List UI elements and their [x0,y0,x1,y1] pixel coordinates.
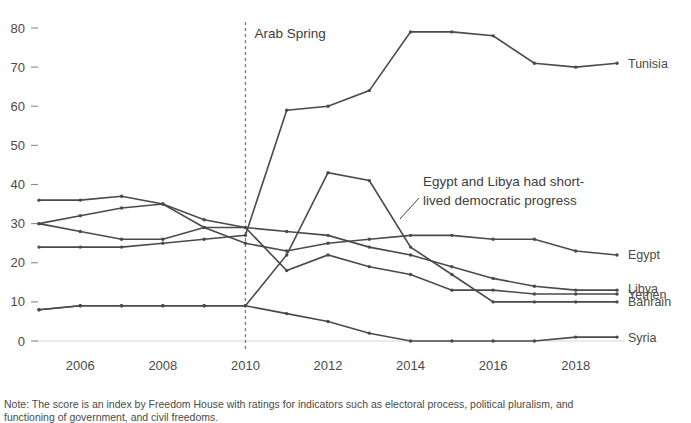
data-point [450,339,453,342]
data-point [37,222,40,225]
data-point [326,320,329,323]
y-axis-tick-label: 70 [11,60,25,75]
data-point [533,292,536,295]
data-point [202,226,205,229]
data-point [450,234,453,237]
x-axis-tick-label: 2016 [479,358,508,373]
data-point [533,300,536,303]
data-point [574,300,577,303]
data-point [326,234,329,237]
data-point [409,245,412,248]
data-point [326,105,329,108]
data-point [368,89,371,92]
data-point [615,335,618,338]
data-point [450,288,453,291]
data-point [244,304,247,307]
data-point [161,304,164,307]
data-point [409,253,412,256]
data-point [533,238,536,241]
data-point [409,273,412,276]
y-axis-tick-label: 10 [11,294,25,309]
event-marker-label: Arab Spring [254,26,325,41]
x-axis-tick-label: 2012 [314,358,343,373]
data-point [491,277,494,280]
data-point [37,245,40,248]
series-label-egypt: Egypt [628,248,660,262]
annotation-line-1: Egypt and Libya had short- [423,174,584,189]
data-point [285,230,288,233]
x-axis-tick-label: 2010 [231,358,260,373]
series-label-libya: Libya [628,282,658,296]
data-point [533,62,536,65]
data-point [79,198,82,201]
y-axis-tick-label: 30 [11,216,25,231]
series-label-syria: Syria [628,331,657,345]
data-point [368,179,371,182]
data-point [574,65,577,68]
data-point [491,339,494,342]
data-point [574,288,577,291]
data-point [161,238,164,241]
data-point [491,300,494,303]
data-point [37,198,40,201]
data-point [615,300,618,303]
data-point [285,312,288,315]
data-point [79,245,82,248]
annotation-line-2: lived democratic progress [423,193,577,208]
data-point [120,245,123,248]
data-point [202,238,205,241]
data-point [574,249,577,252]
annotation-leader-line [400,198,419,219]
data-point [244,226,247,229]
data-point [244,241,247,244]
line-chart: 0102030405060708020062008201020122014201… [0,0,691,423]
x-axis-tick-label: 2008 [148,358,177,373]
data-point [326,171,329,174]
y-axis-tick-label: 60 [11,99,25,114]
y-axis-tick-label: 0 [18,334,25,349]
data-point [285,269,288,272]
data-point [79,230,82,233]
data-point [120,238,123,241]
data-point [409,234,412,237]
x-axis-tick-label: 2014 [396,358,425,373]
data-point [615,62,618,65]
data-point [615,288,618,291]
data-point [533,285,536,288]
y-axis-tick-label: 80 [11,21,25,36]
chart-footnote: Note: The score is an index by Freedom H… [4,398,687,423]
data-point [161,241,164,244]
data-point [79,304,82,307]
x-axis-tick-label: 2006 [66,358,95,373]
series-label-tunisia: Tunisia [628,57,668,71]
y-axis-tick-label: 40 [11,177,25,192]
data-point [368,245,371,248]
data-point [491,34,494,37]
data-point [161,202,164,205]
data-point [450,30,453,33]
data-point [615,292,618,295]
data-point [574,335,577,338]
y-axis-tick-label: 20 [11,255,25,270]
footnote-line-1: Note: The score is an index by Freedom H… [4,398,687,411]
data-point [120,206,123,209]
footnote-line-2: functioning of government, and civil fre… [4,411,687,423]
data-point [491,288,494,291]
series-line-tunisia [39,32,617,247]
data-point [533,339,536,342]
data-point [368,331,371,334]
data-point [285,253,288,256]
data-point [244,234,247,237]
data-point [79,214,82,217]
data-point [326,253,329,256]
chart-canvas: 0102030405060708020062008201020122014201… [0,0,691,390]
series-line-syria [39,306,617,341]
data-point [368,238,371,241]
data-point [450,273,453,276]
data-point [615,253,618,256]
data-point [37,308,40,311]
data-point [120,304,123,307]
data-point [574,292,577,295]
data-point [285,108,288,111]
data-point [120,195,123,198]
